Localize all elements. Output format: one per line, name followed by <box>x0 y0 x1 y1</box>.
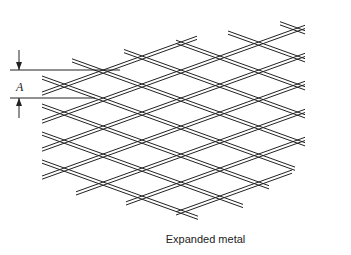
mesh-strand <box>176 43 305 90</box>
mesh-strand <box>42 76 295 167</box>
arrowhead-bottom-icon <box>16 98 22 106</box>
mesh-strand <box>42 104 269 186</box>
mesh-strand <box>76 113 305 196</box>
mesh-strand <box>124 50 305 115</box>
mesh-strand <box>228 31 305 59</box>
mesh-strand <box>124 53 305 118</box>
mesh-strand <box>76 109 305 192</box>
mesh-strand <box>42 163 198 219</box>
mesh-strand <box>42 107 269 189</box>
dimension-label: A <box>16 80 23 95</box>
mesh-strand <box>42 160 198 216</box>
mesh-strand <box>176 173 292 215</box>
mesh-strand <box>42 79 295 170</box>
mesh-lines <box>42 22 305 220</box>
mesh-strand <box>126 141 305 206</box>
mesh-strand <box>228 34 305 62</box>
arrowhead-top-icon <box>16 62 22 70</box>
expanded-metal-mesh <box>0 0 351 255</box>
figure-caption: Expanded metal <box>0 233 351 245</box>
mesh-strand <box>42 36 197 92</box>
